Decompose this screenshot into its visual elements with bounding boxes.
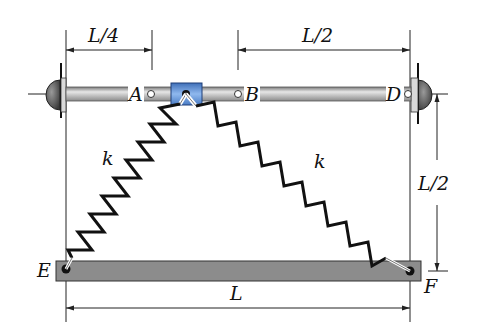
dimension-label-l-over-2-top: L/2 <box>301 24 333 46</box>
label-d: D <box>385 83 401 105</box>
right-support <box>411 63 432 124</box>
dimension-label-l-over-2-vertical: L/2 <box>417 172 449 194</box>
dimension-bottom: L <box>66 282 410 311</box>
dimension-label-l: L <box>229 282 243 304</box>
label-f: F <box>423 275 438 297</box>
label-a: A <box>127 83 143 105</box>
left-support <box>46 63 66 118</box>
spring-collar-diagram: L/4 L/2 L/2 L <box>0 0 479 331</box>
label-b: B <box>244 83 259 105</box>
label-k-left: k <box>102 147 114 169</box>
dimension-label-l-over-4: L/4 <box>87 24 119 46</box>
pin-b-icon <box>235 91 242 98</box>
dimension-right-vertical: L/2 <box>417 94 449 271</box>
pin-d-icon <box>405 91 412 98</box>
label-k-right: k <box>314 150 326 172</box>
spring-left <box>66 94 186 269</box>
pin-a-icon <box>148 91 155 98</box>
dimension-top-left: L/4 <box>66 24 152 53</box>
bottom-beam <box>56 261 421 281</box>
dimension-top-right: L/2 <box>238 24 410 53</box>
spring-right <box>186 94 410 271</box>
label-e: E <box>36 259 51 281</box>
